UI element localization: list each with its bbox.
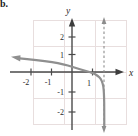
tick-marks — [31, 37, 93, 112]
x-axis-label: x — [128, 68, 134, 78]
y-tick-label-2: 2 — [60, 33, 64, 42]
x-tick-label-neg2: -2 — [23, 78, 30, 87]
graph-figure: b. — [0, 0, 138, 136]
x-axis-arrow-icon — [116, 69, 125, 75]
curve-left-arrow-icon — [11, 55, 21, 61]
y-axis-label: y — [65, 6, 71, 16]
y-tick-label-neg2: -2 — [57, 108, 64, 117]
x-tick-label-1: 1 — [87, 79, 91, 88]
y-tick-label-1: 1 — [60, 51, 64, 60]
figure-corner-label: b. — [0, 0, 9, 10]
graph-canvas: -2 -1 1 2 1 -1 -2 y x — [0, 0, 138, 136]
x-axis — [10, 69, 124, 75]
y-axis-arrow-icon — [69, 18, 75, 27]
y-tick-label-neg1: -1 — [57, 88, 64, 97]
y-axis — [69, 18, 75, 130]
x-tick-label-neg1: -1 — [45, 78, 52, 87]
